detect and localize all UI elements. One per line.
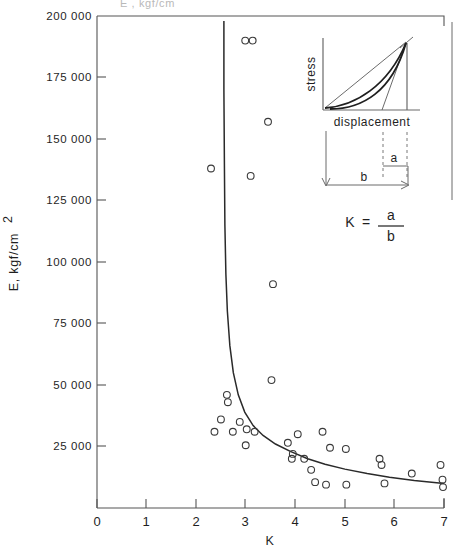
- xtick-label-1: 1: [142, 514, 149, 529]
- figure-container: E , kgf/cm 200 000 175 000 150 000: [0, 0, 455, 548]
- data-point: [236, 419, 243, 426]
- axis-frame: [97, 16, 444, 508]
- xtick-label-5: 5: [341, 514, 348, 529]
- data-point: [343, 481, 350, 488]
- cropped-header-text: E , kgf/cm: [120, 0, 175, 9]
- formula-lhs: K: [345, 214, 355, 230]
- data-point: [270, 281, 277, 288]
- y-axis-title: E, kgf/cm 2: [1, 215, 21, 291]
- data-point: [208, 165, 215, 172]
- data-point: [223, 391, 230, 398]
- data-point: [323, 481, 330, 488]
- formula-numerator: a: [387, 207, 395, 223]
- data-point: [439, 476, 446, 483]
- inset-secant-line: [325, 42, 406, 108]
- inset-a-bracket: [383, 166, 408, 184]
- formula-denominator: b: [387, 228, 395, 244]
- data-point: [288, 455, 295, 462]
- x-axis-ticks: [97, 499, 444, 508]
- data-point: [243, 426, 250, 433]
- inset-label-a: a: [390, 151, 397, 165]
- data-point: [440, 484, 447, 491]
- data-point: [229, 428, 236, 435]
- ytick-label-100000: 100 000: [46, 256, 92, 268]
- data-point: [265, 118, 272, 125]
- data-point: [381, 480, 388, 487]
- data-point: [327, 444, 334, 451]
- inset-x-axis-label: displacement: [334, 115, 411, 129]
- data-point: [342, 446, 349, 453]
- xtick-label-7: 7: [440, 514, 447, 529]
- data-point: [312, 479, 319, 486]
- inset-diagram: stress displacement a b: [304, 22, 452, 200]
- fit-curve: [224, 21, 444, 483]
- scatter-plot: E , kgf/cm 200 000 175 000 150 000: [0, 0, 455, 548]
- data-point: [211, 428, 218, 435]
- formula-equals-sign: =: [362, 214, 370, 230]
- data-point: [249, 37, 256, 44]
- data-point: [242, 37, 249, 44]
- data-point: [319, 428, 326, 435]
- x-axis-tick-labels: 0 1 2 3 4 5 6 7: [93, 514, 447, 529]
- data-point: [308, 466, 315, 473]
- ytick-label-25000: 25 000: [53, 440, 92, 452]
- y-axis-title-text: E, kgf/cm: [7, 233, 21, 291]
- inset-y-axis-label: stress: [304, 56, 318, 91]
- y-axis-title-exponent: 2: [1, 215, 15, 223]
- frame-top: [97, 16, 444, 26]
- data-point: [218, 416, 225, 423]
- xtick-label-0: 0: [93, 514, 100, 529]
- data-point: [437, 462, 444, 469]
- y-axis-ticks: [97, 77, 106, 446]
- ytick-label-125000: 125 000: [46, 194, 92, 206]
- data-point: [242, 442, 249, 449]
- xtick-label-2: 2: [192, 514, 199, 529]
- data-point: [408, 470, 415, 477]
- data-point: [251, 428, 258, 435]
- ytick-label-75000: 75 000: [53, 317, 92, 329]
- x-axis-title: K: [265, 534, 274, 548]
- data-point: [268, 377, 275, 384]
- data-point: [284, 439, 291, 446]
- formula-k-equals-a-over-b: K = a b: [345, 207, 404, 244]
- y-axis-tick-labels: 200 000 175 000 150 000 125 000 100 000 …: [46, 10, 92, 452]
- data-point: [224, 399, 231, 406]
- ytick-label-150000: 150 000: [46, 133, 92, 145]
- ytick-label-200000: 200 000: [46, 10, 92, 22]
- data-point-group: [208, 37, 447, 490]
- inset-label-b: b: [360, 170, 367, 184]
- data-point: [294, 431, 301, 438]
- ytick-label-175000: 175 000: [46, 71, 92, 83]
- xtick-label-4: 4: [291, 514, 298, 529]
- data-point: [378, 462, 385, 469]
- data-point: [247, 173, 254, 180]
- ytick-label-50000: 50 000: [53, 379, 92, 391]
- xtick-label-3: 3: [241, 514, 248, 529]
- xtick-label-6: 6: [390, 514, 397, 529]
